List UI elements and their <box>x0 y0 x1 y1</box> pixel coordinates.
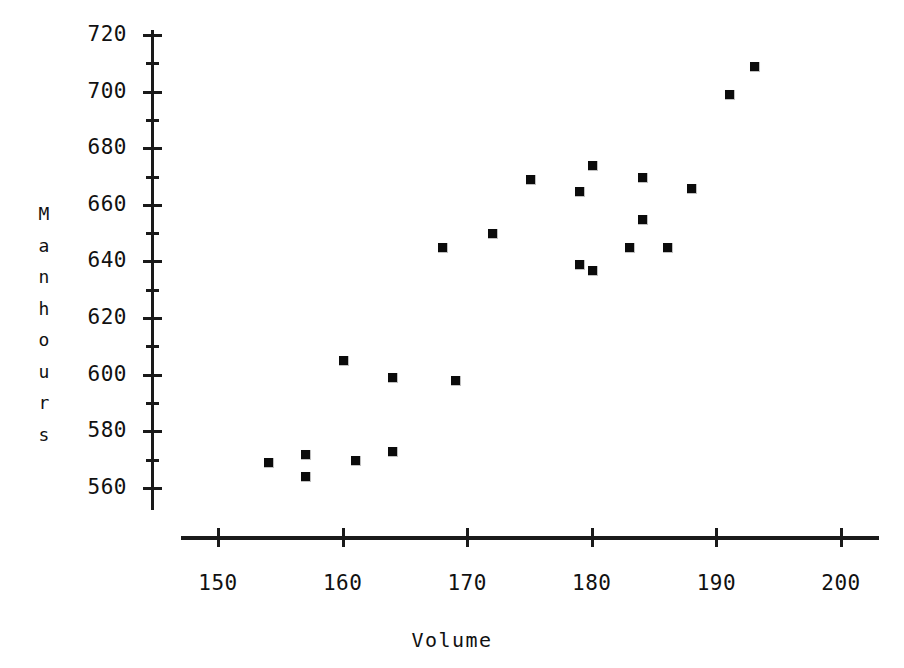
data-point <box>301 472 310 481</box>
data-point <box>625 243 634 252</box>
data-point <box>388 447 397 456</box>
data-point <box>588 266 597 275</box>
data-point <box>388 373 397 382</box>
data-point <box>725 90 734 99</box>
data-point <box>575 260 584 269</box>
data-point <box>638 173 647 182</box>
data-point <box>638 215 647 224</box>
data-point <box>488 229 497 238</box>
data-point <box>750 62 759 71</box>
data-point <box>351 456 360 465</box>
plot-area <box>0 0 904 668</box>
data-point <box>663 243 672 252</box>
data-point <box>264 458 273 467</box>
data-point <box>301 450 310 459</box>
data-point <box>526 175 535 184</box>
data-point <box>438 243 447 252</box>
data-point <box>451 376 460 385</box>
data-point <box>575 187 584 196</box>
data-point <box>588 161 597 170</box>
data-point <box>687 184 696 193</box>
data-point <box>339 356 348 365</box>
scatter-plot-figure: 560580600620640660680700720 150160170180… <box>0 0 904 668</box>
